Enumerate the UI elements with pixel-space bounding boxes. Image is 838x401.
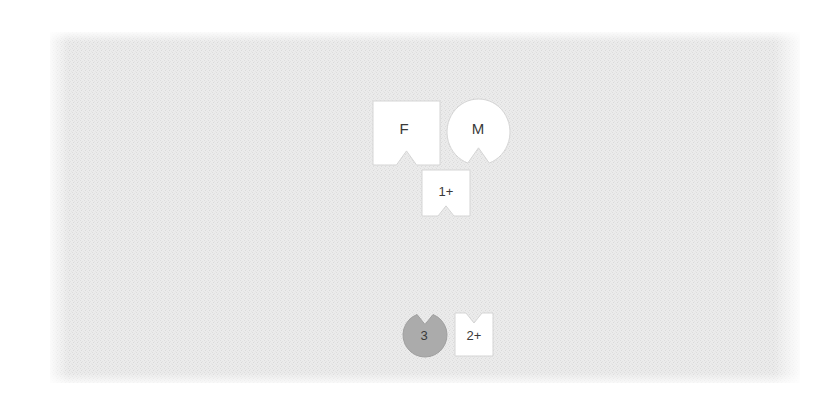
genogram-node-2-plus-label: 2+ <box>434 329 514 342</box>
genogram-node-1-plus-label: 1+ <box>406 185 486 198</box>
genogram-node-f-label: F <box>364 121 444 136</box>
genogram-node-m-label: M <box>438 121 518 136</box>
diagram-canvas: FM1+32+ <box>0 0 838 401</box>
